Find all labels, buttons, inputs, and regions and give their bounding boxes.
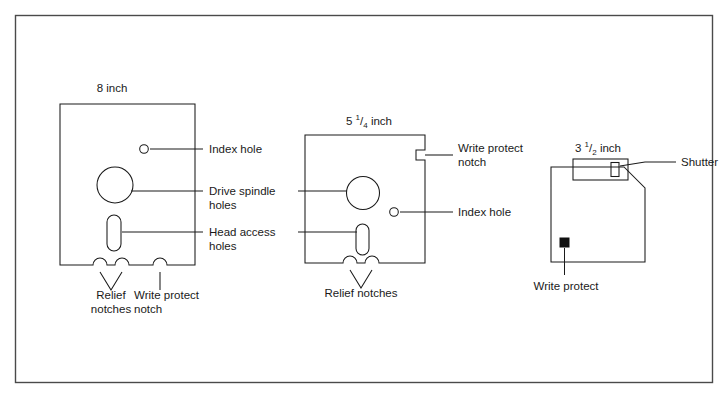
disk-eight-inch	[60, 104, 203, 290]
leader-relief-notches-525	[350, 270, 372, 288]
five-quarter-drive-spindle-hole	[347, 177, 380, 210]
callout-write-protect-notch-8-line2: notch	[134, 303, 162, 315]
floppy-disk-comparison-figure: 8 inch 8 inch 5 1/4 inch 3 1/2 inch Inde…	[0, 0, 727, 405]
three-half-body-outline	[551, 167, 645, 262]
callout-shutter: Shutter	[681, 156, 718, 168]
leader-relief-notches-8	[100, 272, 122, 290]
eight-inch-head-access-hole	[107, 215, 121, 251]
callout-relief-notches-525: Relief notches	[325, 287, 398, 299]
callout-write-protect-notch-525-line2: notch	[458, 156, 486, 168]
size-label-five-quarter-inch: 5 1/4 inch	[346, 113, 392, 130]
callout-drive-spindle-line1: Drive spindle	[209, 185, 275, 197]
callout-index-hole-8: Index hole	[209, 143, 262, 155]
size-525-unit: inch	[371, 115, 392, 127]
eight-inch-drive-spindle-hole	[97, 167, 133, 203]
disk-five-quarter-inch	[298, 135, 453, 288]
callout-index-hole-525: Index hole	[458, 206, 511, 218]
three-half-shutter	[573, 159, 628, 180]
size-8-unit: inch	[106, 82, 127, 94]
callout-write-protect-notch-525-line1: Write protect	[458, 142, 524, 154]
three-half-shutter-slot	[611, 163, 619, 177]
size-35-unit: inch	[600, 142, 621, 154]
callout-write-protect-notch-8-line1: Write protect	[134, 289, 200, 301]
callout-head-access-line1: Head access	[209, 226, 276, 238]
five-quarter-index-hole	[390, 208, 399, 217]
eight-inch-body-outline	[60, 104, 195, 265]
five-quarter-head-access-hole	[356, 224, 369, 255]
three-half-write-protect-tab	[560, 238, 569, 247]
callout-write-protect-35: Write protect	[534, 280, 600, 292]
eight-inch-index-hole	[140, 145, 149, 154]
figure-border	[16, 16, 713, 383]
callout-head-access-line2: holes	[209, 240, 237, 252]
size-label-three-half-inch: 3 1/2 inch	[575, 140, 621, 157]
callout-drive-spindle-line2: holes	[209, 199, 237, 211]
five-quarter-body-outline	[305, 135, 425, 263]
disk-three-half-inch	[551, 159, 676, 275]
callout-relief-notches-8-line1: Relief	[96, 289, 126, 301]
size-label-eight-inch-render: 8 inch	[97, 82, 128, 94]
callout-relief-notches-8-line2: notches	[91, 303, 132, 315]
